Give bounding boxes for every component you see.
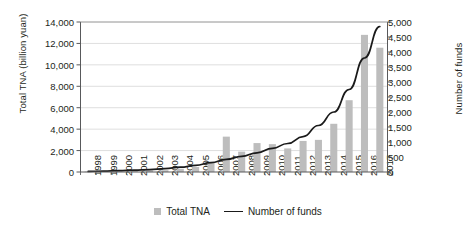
bar [253, 143, 260, 172]
legend-bar-swatch-icon [154, 208, 161, 215]
legend-item-number-of-funds: Number of funds [224, 206, 322, 217]
legend-line-swatch-icon [224, 211, 243, 212]
bar [330, 124, 337, 172]
chart-container: Total TNA (billion yuan) Number of funds… [0, 0, 476, 230]
bar [346, 100, 353, 172]
bar [238, 152, 245, 172]
bar [284, 148, 291, 172]
legend-item-total-tna: Total TNA [154, 206, 210, 217]
bar [223, 137, 230, 172]
bar [207, 163, 214, 172]
legend-label-number-of-funds: Number of funds [248, 206, 322, 217]
bar [376, 48, 383, 172]
bar [192, 167, 199, 172]
bar [315, 140, 322, 172]
chart-legend: Total TNA Number of funds [0, 206, 476, 217]
bar [300, 141, 307, 172]
plot-area [0, 0, 476, 230]
legend-label-total-tna: Total TNA [166, 206, 210, 217]
